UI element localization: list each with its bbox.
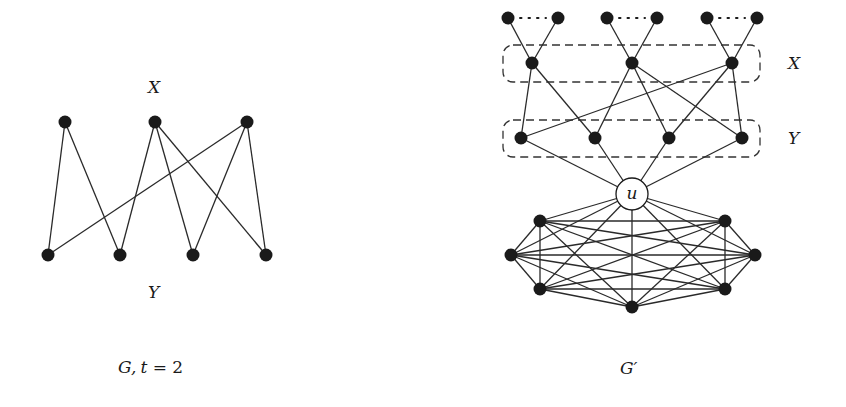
leaf-vertex — [502, 12, 515, 25]
edge — [532, 63, 595, 138]
y-vertex — [42, 249, 55, 262]
clique-vertex — [719, 215, 732, 228]
x-vertex — [241, 116, 254, 129]
clique-vertex — [534, 283, 547, 296]
leaf-vertex — [552, 12, 565, 25]
leaf-vertex — [601, 12, 614, 25]
edge — [48, 122, 65, 255]
clique-edge — [725, 221, 755, 255]
y-vertex — [187, 249, 200, 262]
x-vertex — [526, 57, 539, 70]
clique-vertex — [626, 301, 639, 314]
y-vertex — [515, 132, 528, 145]
edge — [707, 18, 732, 63]
clique-edge — [511, 255, 540, 289]
y-vertex — [260, 249, 273, 262]
x-vertex — [726, 57, 739, 70]
edge — [732, 18, 757, 63]
edge — [632, 63, 742, 138]
edge — [632, 18, 657, 63]
clique-edge — [511, 255, 632, 307]
left-y-label: Y — [148, 282, 161, 302]
clique-vertex — [749, 249, 762, 262]
edge — [532, 18, 558, 63]
clique-vertex — [719, 283, 732, 296]
y-vertex — [663, 132, 676, 145]
edge — [521, 138, 632, 194]
edge — [508, 18, 532, 63]
x-vertex — [149, 116, 162, 129]
edge — [521, 63, 532, 138]
leaf-vertex — [751, 12, 764, 25]
y-vertex — [114, 249, 127, 262]
edge — [120, 122, 155, 255]
edge — [155, 122, 193, 255]
clique-edge — [632, 289, 725, 307]
y-vertex — [589, 132, 602, 145]
leaf-vertex — [701, 12, 714, 25]
edge — [732, 63, 742, 138]
clique-edge — [632, 255, 755, 307]
edge — [632, 138, 742, 194]
edge — [193, 122, 247, 255]
x-vertex — [59, 116, 72, 129]
edge — [65, 122, 120, 255]
left-caption: G,t = 2 — [118, 357, 183, 377]
edge — [607, 18, 632, 63]
left-x-label: X — [146, 77, 161, 97]
left-graph-edges — [48, 122, 266, 255]
clique-edge — [725, 255, 755, 289]
right-y-label: Y — [788, 128, 801, 148]
u-label: u — [627, 183, 638, 203]
edge — [632, 63, 669, 138]
y-vertex — [736, 132, 749, 145]
clique-edge — [511, 221, 540, 255]
edge — [48, 122, 247, 255]
left-graph-nodes — [42, 116, 273, 262]
clique-edge — [540, 289, 632, 307]
right-x-label: X — [786, 53, 801, 73]
graph-figure: X Y G,t = 2 u X Y G′ — [0, 0, 846, 407]
clique-vertex — [505, 249, 518, 262]
clique-edge — [540, 194, 632, 289]
clique-edge — [632, 194, 725, 289]
y-set-box — [503, 120, 760, 157]
clique-vertex — [534, 215, 547, 228]
x-vertex — [626, 57, 639, 70]
leaf-vertex — [651, 12, 664, 25]
right-caption: G′ — [620, 358, 638, 378]
